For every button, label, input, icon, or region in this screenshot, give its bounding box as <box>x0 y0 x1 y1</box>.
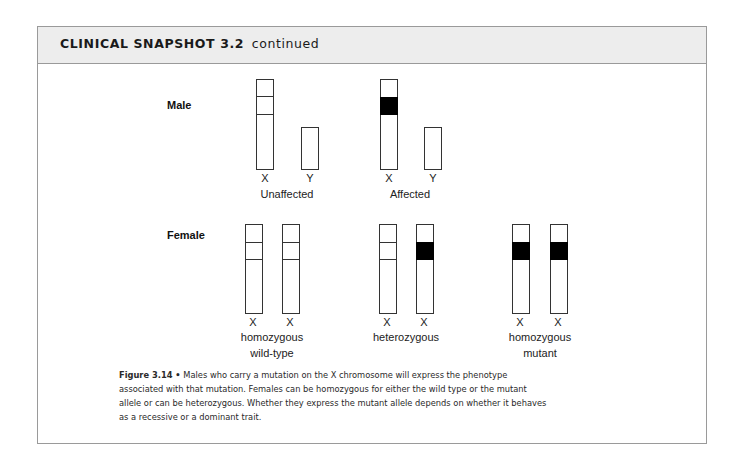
band-boundary <box>257 114 273 115</box>
male-affected-x-chromosome <box>380 79 398 170</box>
male-affected-y-chromosome <box>424 127 442 170</box>
figure-caption: Figure 3.14 • Males who carry a mutation… <box>119 368 549 424</box>
band-boundary <box>380 242 396 243</box>
group-label-line2: mutant <box>490 345 590 361</box>
chromosome-label: X <box>379 172 399 184</box>
chromosome-label: X <box>255 172 275 184</box>
mutant-band <box>512 242 530 260</box>
band-boundary <box>246 242 262 243</box>
group-label-unaffected: Unaffected <box>237 186 337 202</box>
group-label-line2: wild-type <box>222 345 322 361</box>
panel-title: CLINICAL SNAPSHOT 3.2 continued <box>60 36 319 51</box>
panel-title-suffix: continued <box>252 36 320 51</box>
group-label-line1: homozygous <box>222 329 322 345</box>
group-label-line1: homozygous <box>490 329 590 345</box>
band-boundary <box>257 96 273 97</box>
mutant-band <box>550 242 568 260</box>
chromosome-label: Y <box>423 172 443 184</box>
female-mutant-x-chromosome-1 <box>512 224 530 314</box>
chromosome-label: Y <box>300 172 320 184</box>
female-wildtype-x-chromosome-1 <box>245 224 263 314</box>
group-label-affected: Affected <box>360 186 460 202</box>
chromosome-label: X <box>377 316 397 328</box>
female-row-label: Female <box>167 229 205 241</box>
band-boundary <box>283 242 299 243</box>
group-label-heterozygous: heterozygous <box>356 329 456 345</box>
panel-header: CLINICAL SNAPSHOT 3.2 continued <box>38 27 706 64</box>
female-heterozygous-x-chromosome-2 <box>416 224 434 314</box>
male-unaffected-y-chromosome <box>301 127 319 170</box>
group-label-homozygous-wildtype: homozygous wild-type <box>222 329 322 361</box>
male-row-label: Male <box>167 99 191 111</box>
female-mutant-x-chromosome-2 <box>550 224 568 314</box>
chromosome-label: X <box>548 316 568 328</box>
band-boundary <box>380 259 396 260</box>
group-label-homozygous-mutant: homozygous mutant <box>490 329 590 361</box>
male-unaffected-x-chromosome <box>256 79 274 170</box>
figure-caption-label: Figure 3.14 • <box>119 370 181 380</box>
female-heterozygous-x-chromosome-1 <box>379 224 397 314</box>
band-boundary <box>283 259 299 260</box>
figure-caption-text: Males who carry a mutation on the X chro… <box>119 370 546 422</box>
panel-title-bold: CLINICAL SNAPSHOT 3.2 <box>60 36 244 51</box>
mutant-band <box>380 97 398 115</box>
female-wildtype-x-chromosome-2 <box>282 224 300 314</box>
chromosome-label: X <box>510 316 530 328</box>
chromosome-label: X <box>280 316 300 328</box>
mutant-band <box>416 242 434 260</box>
chromosome-label: X <box>414 316 434 328</box>
group-label-line1: heterozygous <box>356 329 456 345</box>
band-boundary <box>246 259 262 260</box>
chromosome-label: X <box>243 316 263 328</box>
